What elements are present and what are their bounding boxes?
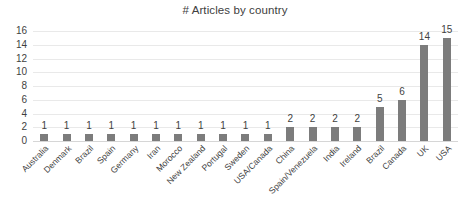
x-axis-tick-label: Iran — [146, 144, 163, 161]
x-label-slot: Iran — [145, 141, 167, 204]
x-axis: AustraliaDenmarkBrazilSpainGermanyIranMo… — [33, 141, 458, 204]
y-axis-tick-label: 6 — [21, 95, 27, 105]
x-label-slot: Brazil — [78, 141, 100, 204]
bar[interactable] — [130, 134, 138, 141]
bar-value-label: 2 — [310, 114, 316, 124]
x-label-slot: Spain — [100, 141, 122, 204]
bar-value-label: 6 — [399, 87, 405, 97]
bar[interactable] — [309, 127, 317, 141]
bar[interactable] — [107, 134, 115, 141]
x-axis-tick-label: USA — [434, 144, 453, 163]
bar-slot: 2 — [324, 31, 346, 141]
x-label-slot: Brazil — [369, 141, 391, 204]
bar-slot: 1 — [212, 31, 234, 141]
bar[interactable] — [197, 134, 205, 141]
bar-value-label: 1 — [64, 121, 70, 131]
bar-slot: 1 — [167, 31, 189, 141]
bar-value-label: 2 — [355, 114, 361, 124]
bar-value-label: 1 — [176, 121, 182, 131]
bar-value-label: 2 — [287, 114, 293, 124]
y-axis-tick-label: 0 — [21, 136, 27, 146]
bar-value-label: 5 — [377, 94, 383, 104]
bar-value-label: 1 — [108, 121, 114, 131]
bar-value-label: 1 — [131, 121, 137, 131]
bar-value-label: 1 — [243, 121, 249, 131]
y-axis-tick-label: 16 — [16, 26, 27, 36]
bar-slot: 1 — [122, 31, 144, 141]
x-label-slot: Ireland — [346, 141, 368, 204]
x-label-slot: Germany — [122, 141, 144, 204]
bar[interactable] — [353, 127, 361, 141]
y-axis-tick-label: 2 — [21, 122, 27, 132]
bar[interactable] — [63, 134, 71, 141]
x-axis-tick-label: Brazil — [74, 144, 96, 166]
bar[interactable] — [40, 134, 48, 141]
chart-container: # Articles by country 1614121086420 1111… — [0, 0, 470, 204]
bar-slot: 1 — [234, 31, 256, 141]
bar-value-label: 1 — [153, 121, 159, 131]
x-label-slot: India — [324, 141, 346, 204]
x-label-slot: Australia — [33, 141, 55, 204]
x-label-slot: Canada — [391, 141, 413, 204]
bar-value-label: 1 — [41, 121, 47, 131]
bar-value-label: 1 — [86, 121, 92, 131]
bar-slot: 15 — [436, 31, 458, 141]
bar-slot: 2 — [346, 31, 368, 141]
bar-value-label: 15 — [441, 25, 452, 35]
x-label-slot: USA — [436, 141, 458, 204]
x-label-slot: Denmark — [55, 141, 77, 204]
bars-layer: 111111111112222561415 — [33, 31, 458, 141]
bar[interactable] — [331, 127, 339, 141]
bar-slot: 2 — [279, 31, 301, 141]
y-axis-tick-label: 14 — [16, 40, 27, 50]
x-label-slot: Spain/Venezuela — [301, 141, 323, 204]
bar-slot: 14 — [413, 31, 435, 141]
bar-value-label: 1 — [220, 121, 226, 131]
y-axis-tick-label: 10 — [16, 67, 27, 77]
bar[interactable] — [174, 134, 182, 141]
bar[interactable] — [264, 134, 272, 141]
bar-value-label: 1 — [198, 121, 204, 131]
chart-title: # Articles by country — [0, 4, 470, 16]
bar-slot: 1 — [100, 31, 122, 141]
bar-value-label: 1 — [265, 121, 271, 131]
bar-slot: 2 — [301, 31, 323, 141]
bar-slot: 5 — [369, 31, 391, 141]
bar[interactable] — [286, 127, 294, 141]
bar[interactable] — [152, 134, 160, 141]
y-axis-tick-label: 8 — [21, 81, 27, 91]
y-axis-tick-label: 4 — [21, 109, 27, 119]
bar-slot: 1 — [55, 31, 77, 141]
bar[interactable] — [219, 134, 227, 141]
bar-slot: 6 — [391, 31, 413, 141]
bar[interactable] — [85, 134, 93, 141]
y-axis: 1614121086420 — [0, 31, 31, 141]
bar-slot: 1 — [145, 31, 167, 141]
x-axis-tick-label: UK — [416, 144, 431, 159]
x-label-slot: UK — [413, 141, 435, 204]
bar-slot: 1 — [78, 31, 100, 141]
x-label-slot: USA/Canada — [257, 141, 279, 204]
bar-value-label: 2 — [332, 114, 338, 124]
bar-slot: 1 — [257, 31, 279, 141]
bar-slot: 1 — [190, 31, 212, 141]
x-label-slot: Portugal — [212, 141, 234, 204]
x-label-slot: New Zealand — [190, 141, 212, 204]
y-axis-tick-label: 12 — [16, 54, 27, 64]
bar-slot: 1 — [33, 31, 55, 141]
bar[interactable] — [443, 38, 451, 141]
bar[interactable] — [420, 45, 428, 141]
bar[interactable] — [376, 107, 384, 141]
bar[interactable] — [398, 100, 406, 141]
bar-value-label: 14 — [419, 32, 430, 42]
bar[interactable] — [241, 134, 249, 141]
